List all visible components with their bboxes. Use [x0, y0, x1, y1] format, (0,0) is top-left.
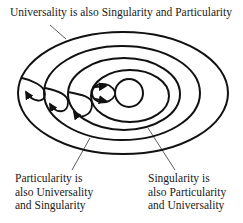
third-ellipse [68, 58, 180, 130]
particularity-label: Particularity is also Universality and S… [15, 172, 115, 213]
loop-4 [92, 84, 115, 102]
particularity-label-line-1: Particularity is [15, 172, 115, 186]
title-leader-line [50, 25, 66, 39]
outer-ellipse [18, 32, 228, 154]
inner-circle [115, 79, 143, 107]
loop-1 [22, 78, 45, 101]
singularity-label-line-1: Singularity is [148, 172, 243, 186]
singularity-label-line-3: and Universality [148, 199, 243, 213]
particularity-label-line-3: and Singularity [15, 199, 115, 213]
left-label-leader-line [72, 138, 90, 170]
loop-3 [68, 92, 92, 116]
singularity-label: Singularity is also Particularity and Un… [148, 172, 243, 213]
diagram-title: Universality is also Singularity and Par… [10, 6, 232, 18]
particularity-label-line-2: also Universality [15, 186, 115, 200]
fourth-ellipse [91, 70, 169, 122]
singularity-label-line-2: also Particularity [148, 186, 243, 200]
